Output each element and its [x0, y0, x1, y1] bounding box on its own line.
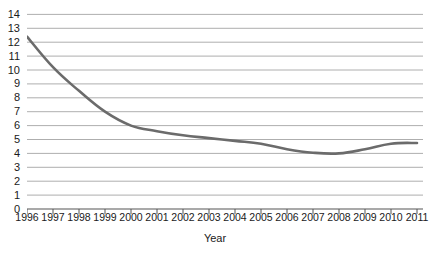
plot-area [27, 0, 425, 215]
y-axis-tick-label: 4 [2, 148, 20, 159]
y-axis-tick-label: 14 [2, 9, 20, 20]
y-axis-tick-label: 7 [2, 106, 20, 117]
y-axis-tick-label: 5 [2, 134, 20, 145]
y-axis-tick-label: 12 [2, 37, 20, 48]
y-axis-tick-label: 3 [2, 162, 20, 173]
y-axis-tick-label: 11 [2, 51, 20, 62]
y-axis-tick-label: 9 [2, 78, 20, 89]
line-chart: 01234567891011121314 1996199719981999200… [0, 0, 430, 254]
y-axis-tick-labels: 01234567891011121314 [0, 0, 20, 215]
y-axis-tick-label: 1 [2, 190, 20, 201]
chart-canvas [27, 0, 425, 215]
x-axis-tick-label: 2011 [400, 212, 430, 223]
y-axis-tick-label: 2 [2, 176, 20, 187]
y-axis-tick-label: 8 [2, 92, 20, 103]
data-series-line [27, 37, 417, 154]
x-axis-title: Year [0, 232, 430, 244]
x-axis-tick-labels: 1996199719981999200020012002200320042005… [0, 212, 430, 230]
y-axis-tick-label: 13 [2, 23, 20, 34]
y-axis-tick-label: 6 [2, 120, 20, 131]
y-axis-tick-label: 10 [2, 65, 20, 76]
